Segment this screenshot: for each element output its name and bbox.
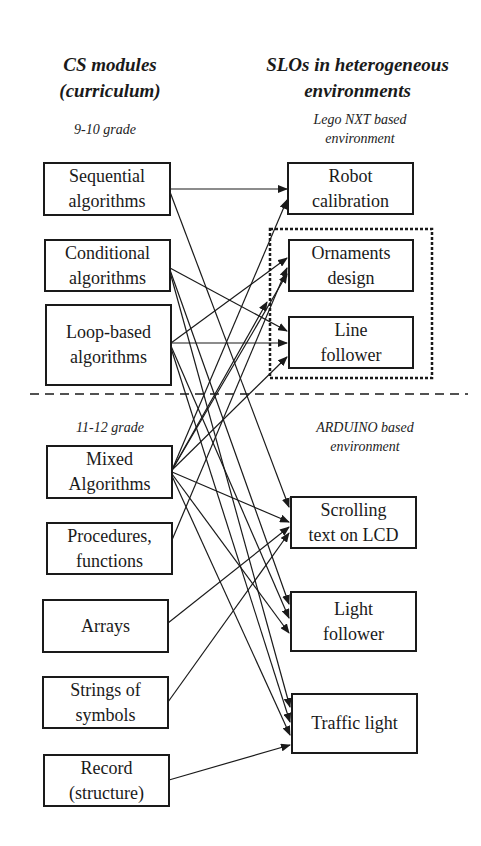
module-strings-of-symbols: Strings of symbols xyxy=(42,676,169,729)
outcome-light-follower: Light follower xyxy=(290,591,417,652)
outcome-traffic-light: Traffic light xyxy=(291,693,418,754)
module-loop-based-algorithms: Loop-based algorithms xyxy=(45,304,172,386)
module-procedures-functions: Procedures, functions xyxy=(46,522,173,575)
outcome-ornaments-design: Ornaments design xyxy=(288,239,414,292)
module-mixed-algorithms: Mixed Algorithms xyxy=(46,445,173,499)
module-conditional-algorithms: Conditional algorithms xyxy=(44,239,171,292)
outcome-robot-calibration: Robot calibration xyxy=(287,162,414,215)
outcome-scrolling-text-lcd: Scrolling text on LCD xyxy=(290,496,417,549)
outcome-line-follower: Line follower xyxy=(288,316,414,369)
module-sequential-algorithms: Sequential algorithms xyxy=(43,162,171,216)
module-arrays: Arrays xyxy=(42,599,169,653)
module-record-structure: Record (structure) xyxy=(43,754,170,807)
